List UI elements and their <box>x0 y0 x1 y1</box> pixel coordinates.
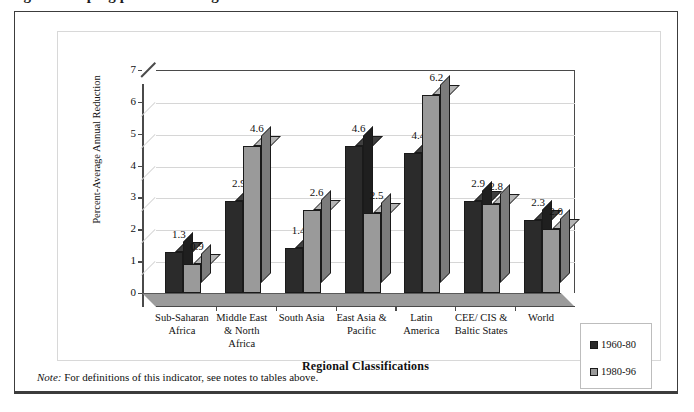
bar-front-face <box>524 220 542 293</box>
bar-front-face <box>165 252 183 293</box>
note-body: For definitions of this indicator, see n… <box>61 371 318 383</box>
bar-front-face <box>363 213 381 293</box>
bar-front-face <box>243 146 261 293</box>
bar-value-label: 4.6 <box>345 122 373 134</box>
bar[interactable] <box>404 153 422 293</box>
figure-note: Note: For definitions of this indicator,… <box>37 371 318 383</box>
bar-front-face <box>285 248 303 293</box>
bar-front-face <box>404 153 422 293</box>
chart-legend: 1960-80 1980-96 <box>580 323 652 389</box>
bar[interactable] <box>422 95 440 293</box>
bar-front-face <box>303 210 321 293</box>
legend-swatch-1960-80 <box>590 341 598 349</box>
bar-front-face <box>482 204 500 293</box>
legend-item[interactable]: 1960-80 <box>590 339 636 350</box>
bar-front-face <box>542 229 560 293</box>
bar-side-face <box>500 184 510 283</box>
bar-side-face <box>440 75 450 283</box>
legend-swatch-1980-96 <box>590 368 598 376</box>
x-axis-category-label: East Asia & Pacific <box>332 311 392 337</box>
bar-value-label: 2.0 <box>542 205 570 217</box>
bar-value-label: 0.9 <box>183 240 211 252</box>
bar[interactable] <box>363 213 381 293</box>
bar-front-face <box>183 264 201 293</box>
bar-front-face <box>225 201 243 293</box>
figure-outer-frame: Percent-Average Annual Reduction 0123456… <box>14 11 678 394</box>
x-axis-category-label: Middle East & North Africa <box>212 311 272 350</box>
x-axis-category-label: South Asia <box>272 311 332 324</box>
bar[interactable] <box>524 220 542 293</box>
bar-side-face <box>560 209 570 283</box>
bar[interactable] <box>165 252 183 293</box>
chart-frame: Percent-Average Annual Reduction 0123456… <box>57 31 661 361</box>
bar[interactable] <box>303 210 321 293</box>
bar-value-label: 4.6 <box>243 122 271 134</box>
bar-value-label: 1.3 <box>165 228 193 240</box>
bar-value-label: 2.5 <box>363 189 391 201</box>
bar-side-face <box>261 126 271 283</box>
bar[interactable] <box>542 229 560 293</box>
x-axis-category-label: CEE/ CIS & Baltic States <box>451 311 511 337</box>
legend-label: 1980-96 <box>601 366 636 377</box>
bar-front-face <box>464 201 482 293</box>
bar-front-face <box>345 146 363 293</box>
x-axis-category-label: Latin America <box>391 311 451 337</box>
plot-area: Percent-Average Annual Reduction 0123456… <box>58 32 662 362</box>
cropped-heading-fragment: figure. Keeping pace with the goal <box>0 0 694 8</box>
bar[interactable] <box>464 201 482 293</box>
bar[interactable] <box>285 248 303 293</box>
bar[interactable] <box>345 146 363 293</box>
bar-value-label: 6.2 <box>422 71 450 83</box>
x-axis-category-label: Sub-Saharan Africa <box>152 311 212 337</box>
bar-side-face <box>381 193 391 283</box>
bar[interactable] <box>482 204 500 293</box>
bar-value-label: 2.6 <box>303 186 331 198</box>
legend-label: 1960-80 <box>601 339 636 350</box>
bar[interactable] <box>243 146 261 293</box>
cropped-heading-text: figure. Keeping pace with the goal <box>14 0 239 4</box>
bar-front-face <box>422 95 440 293</box>
bar-side-face <box>321 190 331 283</box>
note-prefix: Note: <box>37 371 61 383</box>
bar-value-label: 2.8 <box>482 180 510 192</box>
bar[interactable] <box>183 264 201 293</box>
bar[interactable] <box>225 201 243 293</box>
x-axis-category-label: World <box>511 311 571 324</box>
legend-item[interactable]: 1980-96 <box>590 366 636 377</box>
